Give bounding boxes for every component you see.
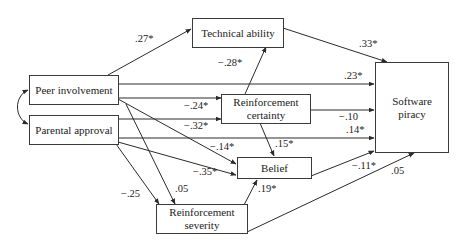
coef-certainty-belief: .15* [275, 138, 293, 149]
edge-certainty-technical [245, 47, 266, 94]
edge-certainty-belief [260, 123, 274, 156]
edge-peer-belief [118, 99, 236, 164]
path-diagram: Technical ability Peer involvement Paren… [0, 0, 466, 246]
coef-technical-piracy: .33* [359, 38, 377, 49]
node-label: Peer involvement [35, 84, 112, 97]
node-parental-approval: Parental approval [29, 115, 119, 145]
node-label: Software piracy [387, 95, 437, 121]
edge-peer-parental-correlation [18, 90, 29, 124]
coef-peer-severity: .05 [175, 183, 188, 194]
coef-peer-piracy: .23* [344, 70, 362, 81]
node-label: Parental approval [35, 124, 112, 137]
coef-peer-technical: .27* [135, 33, 153, 44]
node-peer-involvement: Peer involvement [29, 75, 119, 105]
node-label: Belief [261, 162, 288, 175]
node-label: Reinforcement severity [164, 206, 240, 232]
coef-peer-certainty: −.24* [184, 100, 208, 111]
node-software-piracy: Software piracy [375, 62, 449, 153]
node-label: Technical ability [201, 27, 274, 40]
coef-certainty-technical: −.28* [218, 57, 242, 68]
node-technical-ability: Technical ability [192, 18, 284, 48]
node-reinforcement-certainty: Reinforcement certainty [221, 94, 311, 124]
coef-parental-piracy: .14* [346, 124, 364, 135]
coef-parental-severity: −.25 [121, 188, 140, 199]
coef-parental-belief: −.35* [193, 166, 217, 177]
coef-belief-piracy: −.11* [352, 160, 376, 171]
node-belief: Belief [237, 157, 312, 179]
edge-severity-belief [244, 180, 257, 205]
coef-peer-belief: −.14* [210, 141, 234, 152]
coef-certainty-piracy: −.10 [339, 111, 358, 122]
coef-severity-belief: .19* [258, 183, 276, 194]
node-reinforcement-severity: Reinforcement severity [156, 204, 248, 234]
coef-parental-certainty: −.32* [184, 120, 208, 131]
coef-severity-piracy: .05 [391, 165, 404, 176]
node-label: Reinforcement certainty [228, 96, 304, 122]
